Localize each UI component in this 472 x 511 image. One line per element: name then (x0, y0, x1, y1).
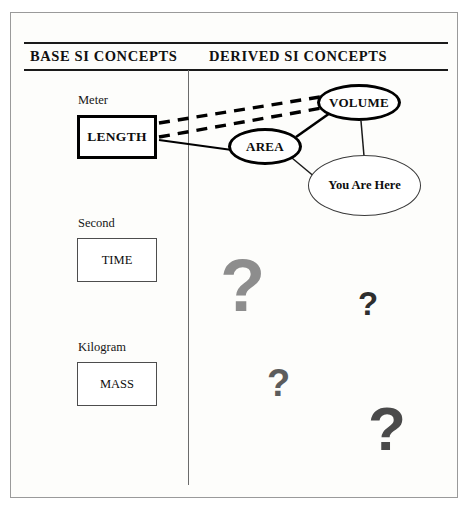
concept-box-length[interactable]: LENGTH (77, 115, 157, 159)
column-divider (188, 70, 189, 485)
unit-label-meter: Meter (78, 93, 108, 108)
unit-label-second: Second (78, 216, 115, 231)
concept-box-mass[interactable]: MASS (77, 362, 157, 406)
column-heading-base: BASE SI CONCEPTS (30, 48, 177, 65)
question-mark-small-gray: ? (267, 364, 290, 402)
concept-box-time[interactable]: TIME (77, 238, 157, 282)
question-mark-small-dark: ? (358, 287, 378, 320)
header-rule-top (24, 42, 448, 44)
header-rule-bottom (24, 69, 448, 71)
concept-ellipse-you-are-here[interactable]: You Are Here (308, 155, 421, 216)
unit-label-kilogram: Kilogram (78, 340, 126, 355)
question-mark-large-gray: ? (220, 249, 265, 323)
diagram-page: BASE SI CONCEPTS DERIVED SI CONCEPTS Met… (0, 0, 472, 511)
concept-ellipse-area[interactable]: AREA (228, 128, 302, 165)
column-heading-derived: DERIVED SI CONCEPTS (209, 48, 387, 65)
question-mark-large-dark: ? (368, 398, 406, 460)
concept-ellipse-volume[interactable]: VOLUME (317, 84, 401, 121)
